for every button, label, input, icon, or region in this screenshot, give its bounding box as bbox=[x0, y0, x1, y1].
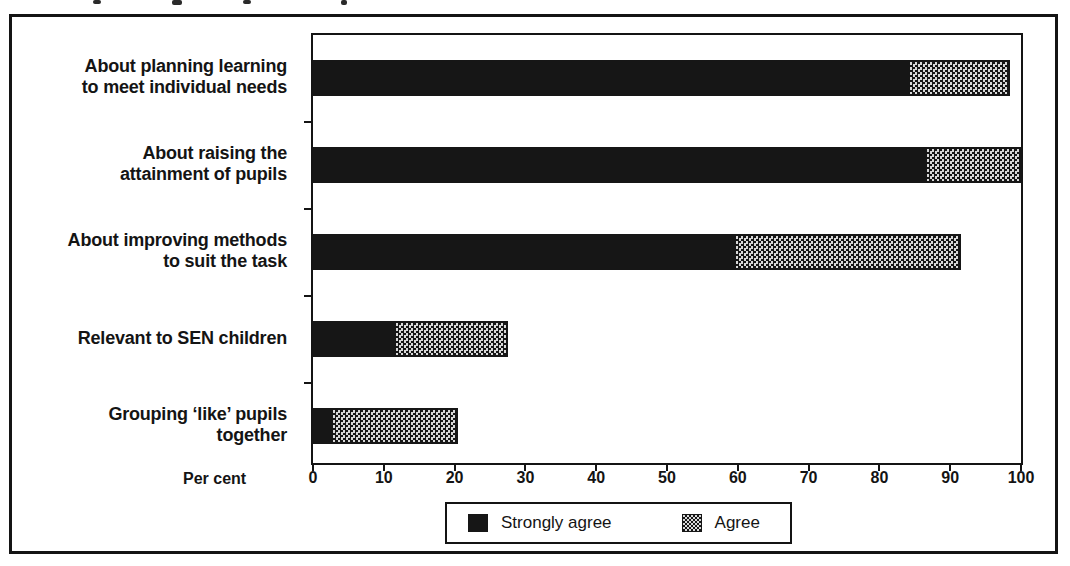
bar-row bbox=[313, 60, 1010, 96]
category-label: About improving methods to suit the task bbox=[0, 230, 287, 272]
x-tick-label: 80 bbox=[870, 469, 888, 487]
x-axis-title: Per cent bbox=[183, 470, 246, 488]
x-tick-label: 70 bbox=[800, 469, 818, 487]
category-label: Relevant to SEN children bbox=[0, 328, 287, 349]
y-axis-tick bbox=[304, 295, 313, 297]
bar-row bbox=[313, 408, 458, 444]
legend: Strongly agree Agree bbox=[445, 502, 792, 544]
category-label: About planning learning to meet individu… bbox=[0, 56, 287, 98]
agree-swatch bbox=[682, 514, 702, 532]
strongly-agree-swatch bbox=[468, 514, 488, 532]
bar-segment-agree bbox=[394, 321, 507, 357]
y-axis-tick bbox=[304, 382, 313, 384]
scan-artifact bbox=[172, 0, 182, 5]
bar-segment-strongly-agree bbox=[313, 321, 394, 357]
bar-segment-strongly-agree bbox=[313, 60, 908, 96]
x-tick-label: 30 bbox=[516, 469, 534, 487]
x-tick-label: 20 bbox=[446, 469, 464, 487]
plot-area bbox=[311, 33, 1023, 465]
category-label: About raising the attainment of pupils bbox=[0, 143, 287, 185]
x-tick-label: 60 bbox=[729, 469, 747, 487]
x-tick-label: 10 bbox=[375, 469, 393, 487]
bar-row bbox=[313, 234, 961, 270]
legend-item-agree: Agree bbox=[682, 513, 760, 533]
bar-segment-strongly-agree bbox=[313, 147, 925, 183]
scan-artifact bbox=[243, 0, 251, 4]
category-label: Grouping ‘like’ pupils together bbox=[0, 404, 287, 446]
bar-row bbox=[313, 147, 1021, 183]
bar-segment-agree bbox=[331, 408, 458, 444]
scan-artifact bbox=[93, 0, 101, 4]
y-axis-tick bbox=[304, 208, 313, 210]
legend-label-agree: Agree bbox=[715, 513, 760, 533]
scan-artifact bbox=[341, 0, 347, 5]
bar-row bbox=[313, 321, 508, 357]
bar-segment-strongly-agree bbox=[313, 234, 734, 270]
x-tick-label: 50 bbox=[658, 469, 676, 487]
bar-segment-strongly-agree bbox=[313, 408, 331, 444]
x-tick-label: 0 bbox=[309, 469, 318, 487]
x-tick-label: 40 bbox=[587, 469, 605, 487]
bar-segment-agree bbox=[734, 234, 961, 270]
y-axis-tick bbox=[304, 121, 313, 123]
bar-segment-agree bbox=[908, 60, 1011, 96]
legend-label-strongly-agree: Strongly agree bbox=[501, 513, 612, 533]
bar-segment-agree bbox=[925, 147, 1021, 183]
x-tick-label: 90 bbox=[941, 469, 959, 487]
legend-item-strongly-agree: Strongly agree bbox=[468, 513, 612, 533]
x-tick-label: 100 bbox=[1008, 469, 1035, 487]
